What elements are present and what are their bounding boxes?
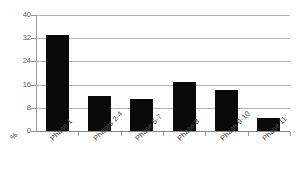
x-tick-mark [290, 132, 291, 136]
y-axis-tick-label: 32 [7, 34, 31, 42]
bar [46, 35, 69, 131]
x-tick-mark [205, 132, 206, 136]
x-tick-mark [78, 132, 79, 136]
bar-chart: 0816243240 Phase 1Phases 2-4Phase 5-7Pha… [0, 0, 304, 182]
y-axis-tick-label: 40 [7, 11, 31, 19]
y-axis-tick-label: 8 [7, 104, 31, 112]
x-tick-mark [163, 132, 164, 136]
y-axis-tick-label: 24 [7, 57, 31, 65]
x-tick-mark [121, 132, 122, 136]
y-axis-tick-label: 16 [7, 81, 31, 89]
x-tick-mark [248, 132, 249, 136]
bar-series [36, 15, 290, 131]
